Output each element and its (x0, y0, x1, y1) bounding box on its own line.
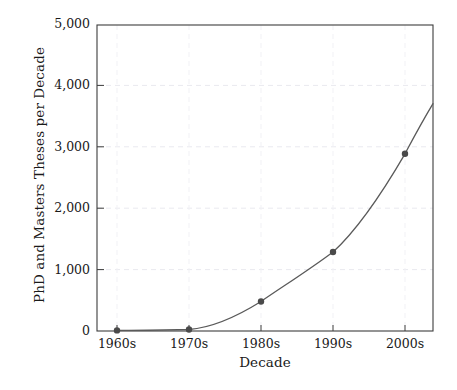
x-tick-label-1960s: 1960s (84, 336, 150, 351)
data-point-1980s (258, 298, 264, 304)
x-tick-label-2000s: 2000s (372, 336, 438, 351)
x-axis-title: Decade (97, 354, 433, 370)
x-tick-label-1990s: 1990s (300, 336, 366, 351)
gridlines (97, 85, 433, 269)
data-point-2000s (402, 151, 408, 157)
data-point-1960s (114, 327, 120, 333)
data-point-1990s (330, 249, 336, 255)
plot-frame (97, 25, 433, 331)
x-tick-label-1970s: 1970s (156, 336, 222, 351)
data-curve (117, 104, 433, 331)
vertical-gridlines (117, 25, 405, 331)
data-point-1970s (186, 326, 192, 332)
x-tick-label-1980s: 1980s (228, 336, 294, 351)
chart-figure: PhD and Masters Theses per Decade 5,000 … (0, 0, 457, 390)
y-tick-marks (97, 85, 104, 269)
